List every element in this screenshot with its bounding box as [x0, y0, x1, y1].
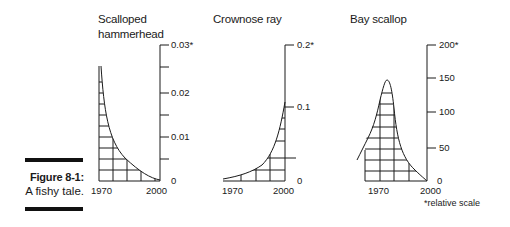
- data-curve: [101, 66, 160, 180]
- chart-scallop: [357, 45, 436, 181]
- y-tick-label: 150: [439, 72, 455, 83]
- data-curve: [223, 102, 285, 179]
- x-tick-label: 1970: [368, 185, 389, 196]
- charts-canvas: 0.03* 0.02 0.01 0 1970 2000 0.2* 0.1 0 1…: [0, 0, 510, 227]
- y-tick-label: 0.02: [171, 87, 190, 98]
- y-tick-label: 0.01: [171, 131, 190, 142]
- data-curve: [357, 80, 427, 181]
- chart-ray: [223, 45, 296, 181]
- hatched-area: [99, 60, 160, 181]
- y-tick-label: 0.1: [297, 101, 310, 112]
- chart-hammerhead: [99, 45, 169, 181]
- y-tick-label: 0: [297, 175, 302, 186]
- y-tick-label: 200*: [439, 39, 459, 50]
- x-tick-label: 2000: [146, 185, 167, 196]
- x-tick-label: 2000: [273, 185, 294, 196]
- y-tick-label: 0.03*: [171, 39, 193, 50]
- y-tick-label: 100: [439, 106, 455, 117]
- x-tick-label: 2000: [420, 185, 441, 196]
- x-tick-label: 1970: [91, 185, 112, 196]
- y-tick-label: 0: [171, 175, 176, 186]
- y-tick-label: 0.2*: [297, 39, 314, 50]
- footnote-relative-scale: *relative scale: [424, 198, 480, 208]
- y-tick-label: 50: [439, 142, 450, 153]
- x-tick-label: 1970: [222, 185, 243, 196]
